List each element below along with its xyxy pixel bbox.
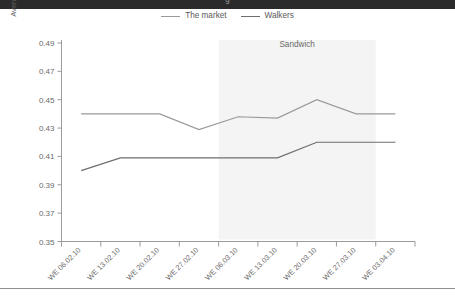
- plot-area: Average price per single pack unit (£) S…: [0, 0, 455, 299]
- y-tick-label: 0.49: [39, 39, 55, 48]
- x-tick-label: WE 13.03.10: [242, 246, 279, 283]
- x-tick-group: WE 06.02.10WE 13.02.10WE 20.02.10WE 27.0…: [46, 242, 415, 283]
- x-tick-label: WE 27.02.10: [164, 246, 201, 283]
- x-tick-label: WE 27.03.10: [321, 246, 358, 283]
- x-tick-label: WE 03.04.10: [360, 246, 397, 283]
- x-tick-label: WE 20.02.10: [125, 246, 162, 283]
- y-tick-label: 0.43: [39, 124, 55, 133]
- y-tick-label: 0.39: [39, 181, 55, 190]
- bottom-divider: [0, 288, 455, 289]
- chart-screenshot: g The market Walkers Average price per s…: [0, 0, 455, 299]
- x-tick-label: WE 20.03.10: [282, 246, 319, 283]
- annotation-label-sandwich: Sandwich: [279, 40, 315, 49]
- x-tick-label: WE 13.02.10: [85, 246, 122, 283]
- y-tick-group: 0.350.370.390.410.430.450.470.49: [39, 39, 62, 247]
- y-tick-label: 0.37: [39, 209, 55, 218]
- y-tick-label: 0.45: [39, 96, 55, 105]
- shaded-band-sandwich: [219, 40, 376, 240]
- x-tick-label: WE 06.03.10: [203, 246, 240, 283]
- x-tick-label: WE 06.02.10: [46, 246, 83, 283]
- y-tick-label: 0.41: [39, 152, 55, 161]
- chart-canvas: Sandwich 0.350.370.390.410.430.450.470.4…: [0, 0, 455, 299]
- y-tick-label: 0.47: [39, 67, 55, 76]
- y-tick-label: 0.35: [39, 238, 55, 247]
